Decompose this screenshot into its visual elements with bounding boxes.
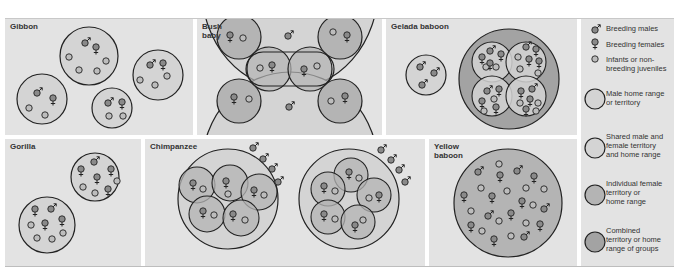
panel-bush-baby: Bush baby — [197, 19, 382, 135]
title-gelada: Gelada baboon — [391, 22, 449, 31]
title-chimpanzee: Chimpanzee — [150, 142, 197, 151]
female-range-circle-icon — [583, 183, 607, 207]
bottom-border — [5, 266, 674, 267]
bush-baby-diagram — [197, 19, 382, 135]
female-symbol-icon — [585, 37, 607, 53]
title-bush-baby: Bush baby — [202, 22, 222, 40]
panel-yellow-baboon: Yellow baboon — [429, 139, 577, 266]
panel-gelada: Gelada baboon — [386, 19, 577, 135]
light-range-circle-icon — [583, 87, 607, 111]
title-gibbon: Gibbon — [10, 22, 38, 31]
title-yellow-baboon: Yellow baboon — [434, 142, 463, 160]
juvenile-circle-icon — [585, 54, 607, 68]
gibbon-diagram — [5, 19, 193, 135]
legend: Breeding males Breeding females Infants … — [581, 19, 674, 266]
panel-gibbon: Gibbon — [5, 19, 193, 135]
gelada-diagram — [386, 19, 577, 135]
male-symbol-icon — [585, 22, 607, 36]
panel-chimpanzee: Chimpanzee — [145, 139, 425, 266]
group-range-circle-icon — [583, 230, 607, 254]
title-gorilla: Gorilla — [10, 142, 35, 151]
chimpanzee-diagram — [145, 139, 425, 266]
shared-range-circle-icon — [583, 136, 607, 160]
gorilla-diagram — [5, 139, 141, 266]
panel-gorilla: Gorilla — [5, 139, 141, 266]
